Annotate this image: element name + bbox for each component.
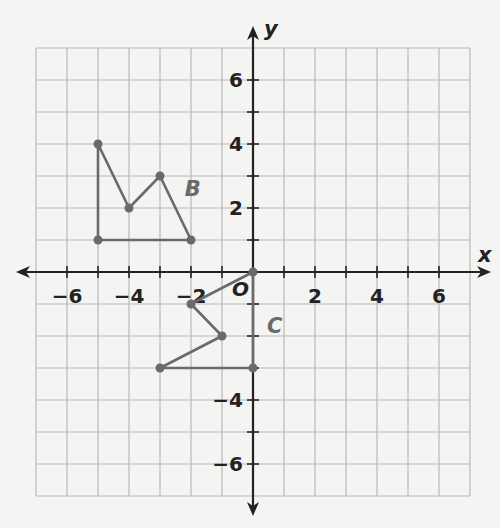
vertex-point xyxy=(94,140,103,149)
y-tick-label: −4 xyxy=(212,388,243,412)
vertex-point xyxy=(218,332,227,341)
coordinate-plane: −6−4−2246642−4−6xyOBC xyxy=(0,0,500,528)
graph-svg: −6−4−2246642−4−6xyOBC xyxy=(0,0,500,528)
y-tick-label: 4 xyxy=(229,132,243,156)
x-tick-label: −4 xyxy=(114,284,145,308)
vertex-point xyxy=(187,236,196,245)
vertex-point xyxy=(156,364,165,373)
x-tick-label: 6 xyxy=(432,284,446,308)
vertex-point xyxy=(156,172,165,181)
vertex-point xyxy=(249,268,258,277)
vertex-point xyxy=(94,236,103,245)
x-tick-label: −6 xyxy=(52,284,83,308)
shape-label-c: C xyxy=(267,314,283,338)
vertex-point xyxy=(187,300,196,309)
vertex-point xyxy=(125,204,134,213)
vertex-point xyxy=(249,364,258,373)
y-tick-label: 2 xyxy=(229,196,243,220)
x-axis-label: x xyxy=(477,243,493,267)
y-tick-label: −6 xyxy=(212,452,243,476)
y-axis-label: y xyxy=(264,17,279,41)
y-tick-label: 6 xyxy=(229,68,243,92)
x-tick-label: 2 xyxy=(308,284,322,308)
shape-b xyxy=(98,144,191,240)
x-tick-label: 4 xyxy=(370,284,384,308)
shape-label-b: B xyxy=(185,177,201,201)
